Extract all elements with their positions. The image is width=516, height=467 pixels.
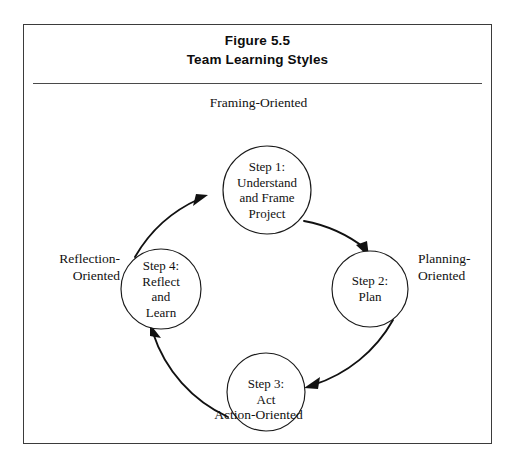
arrow-step4-to-step1: [135, 199, 199, 257]
cycle-diagram: Step 1: Understand and Frame Project Ste…: [24, 25, 493, 445]
orientation-label-left: Reflection- Oriented: [24, 251, 120, 284]
orientation-label-right: Planning- Oriented: [418, 251, 471, 284]
figure-frame: Figure 5.5 Team Learning Styles Step 1: …: [23, 24, 492, 444]
node-circle-step1[interactable]: [223, 146, 311, 234]
arrow-step3-to-step4: [153, 333, 228, 417]
orientation-label-bottom: Action-Oriented: [24, 407, 493, 424]
arrow-step2-to-step3: [313, 320, 393, 385]
cycle-graphic: [24, 25, 493, 445]
arrowhead-into-step3: [304, 377, 320, 389]
orientation-label-top: Framing-Oriented: [24, 95, 493, 112]
node-circle-step2[interactable]: [332, 251, 408, 327]
arrowhead-into-step1: [193, 194, 208, 206]
node-circle-step4[interactable]: [121, 249, 201, 329]
